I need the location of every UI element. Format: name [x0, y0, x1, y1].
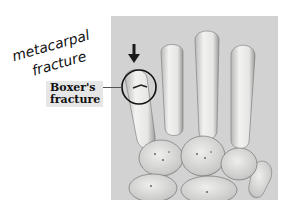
- hand-skeleton-photo: [111, 16, 278, 200]
- boxers-fracture-label: Boxer's fracture: [46, 81, 103, 107]
- label-line-2: fracture: [50, 94, 100, 106]
- fracture-highlight-circle: [120, 68, 158, 106]
- down-arrow-icon: [128, 44, 140, 64]
- handwritten-annotation: metacarpal fracture: [10, 18, 110, 78]
